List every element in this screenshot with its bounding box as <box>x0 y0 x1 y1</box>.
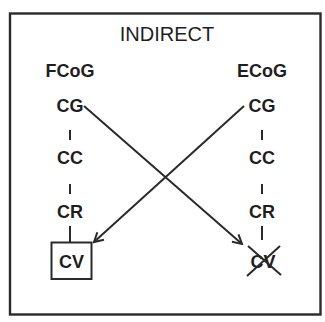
right-column: CG CC CR CV <box>247 96 281 276</box>
diagram-title: INDIRECT <box>120 23 214 45</box>
right-node-cg: CG <box>249 96 276 116</box>
left-node-cv: CV <box>59 252 84 272</box>
column-header-fcog: FCoG <box>46 61 95 81</box>
left-node-cr: CR <box>57 202 83 222</box>
right-node-cr: CR <box>249 202 275 222</box>
arrow-fcog-cg-to-ecog-cv <box>84 106 242 244</box>
indirect-diagram: INDIRECT FCoG ECoG CG CC CR CV CG CC CR … <box>0 0 325 322</box>
left-node-cg: CG <box>57 96 84 116</box>
right-node-cc: CC <box>249 148 275 168</box>
left-node-cc: CC <box>57 148 83 168</box>
column-header-ecog: ECoG <box>237 61 287 81</box>
left-column: CG CC CR CV <box>52 96 92 279</box>
arrow-ecog-cg-to-fcog-cv <box>94 106 244 242</box>
